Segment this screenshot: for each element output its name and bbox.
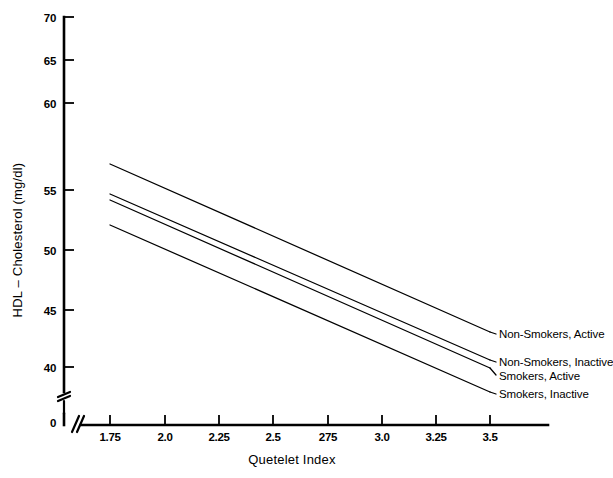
series-label-non-smokers-inactive: Non-Smokers, Inactive (499, 356, 613, 368)
x-axis-title: Quetelet Index (248, 452, 336, 467)
leader-line-non-smokers-inactive (490, 360, 496, 362)
y-tick-label-70: 70 (44, 12, 56, 24)
series-lines-group (110, 164, 490, 392)
series-label-smokers-inactive: Smokers, Inactive (499, 388, 589, 400)
chart-canvas: 70 65 60 55 50 45 40 0 1.75 2.0 2.25 2 (0, 0, 613, 478)
y-tick-label-60: 60 (44, 98, 56, 110)
x-axis-group: 1.75 2.0 2.25 2.5 275 3.0 3.25 3.5 (72, 415, 548, 443)
leader-line-smokers-active (490, 368, 496, 375)
x-tick-label-2-5: 2.5 (265, 431, 281, 443)
series-line-smokers-inactive (110, 225, 490, 392)
series-line-non-smokers-inactive (110, 194, 490, 360)
x-tick-label-2-75: 275 (319, 431, 338, 443)
series-line-non-smokers-active (110, 164, 490, 332)
chart-figure: 70 65 60 55 50 45 40 0 1.75 2.0 2.25 2 (0, 0, 613, 478)
x-tick-label-3-5: 3.5 (482, 431, 498, 443)
y-tick-label-50: 50 (44, 245, 56, 257)
series-label-non-smokers-active: Non-Smokers, Active (499, 328, 604, 340)
y-tick-label-40: 40 (44, 362, 56, 374)
y-axis-group: 70 65 60 55 50 45 40 0 (44, 12, 74, 429)
y-axis-break-icon (58, 392, 70, 414)
series-label-smokers-active: Smokers, Active (499, 370, 580, 382)
y-tick-label-65: 65 (44, 55, 57, 67)
x-tick-label-3-0: 3.0 (374, 431, 389, 443)
x-tick-label-1-75: 1.75 (99, 431, 121, 443)
leader-line-non-smokers-active (490, 332, 496, 334)
y-tick-label-55: 55 (44, 185, 57, 197)
x-tick-label-2-0: 2.0 (157, 431, 172, 443)
leader-line-smokers-inactive (490, 392, 496, 394)
x-tick-label-3-25: 3.25 (425, 431, 447, 443)
series-line-smokers-active (110, 200, 490, 368)
label-leaders-group (490, 332, 496, 394)
y-tick-label-45: 45 (44, 305, 57, 317)
y-tick-label-0: 0 (50, 417, 56, 429)
y-axis-title: HDL – Cholesterol (mg/dl) (10, 163, 25, 318)
x-tick-label-2-25: 2.25 (208, 431, 230, 443)
series-labels-group: Non-Smokers, Active Non-Smokers, Inactiv… (499, 328, 613, 400)
